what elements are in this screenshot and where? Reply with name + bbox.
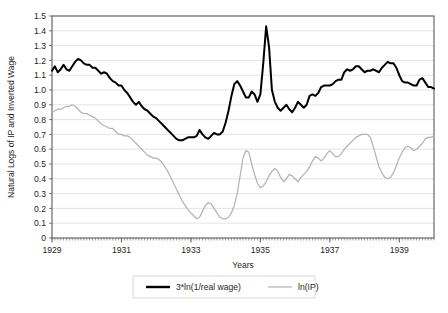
y-tick-label: 1.4 [34,26,46,36]
x-tick-label: 1931 [112,245,131,255]
x-tick-label: 1939 [390,245,409,255]
x-axis-title: Years [232,260,253,270]
y-axis-title: Natural Logs of IP and Inverted Wage [6,56,16,198]
y-tick-label: 0.4 [34,174,46,184]
y-tick-label: 1.0 [34,85,46,95]
x-tick-label: 1937 [320,245,339,255]
y-tick-label: 0.9 [34,100,46,110]
line-chart: 00.10.20.30.40.50.60.70.80.91.01.11.21.3… [0,0,448,313]
chart-figure: 00.10.20.30.40.50.60.70.80.91.01.11.21.3… [0,0,448,313]
y-tick-label: 0.5 [34,159,46,169]
y-tick-label: 0.2 [34,204,46,214]
y-tick-label: 1.3 [34,41,46,51]
y-tick-label: 1.1 [34,70,46,80]
y-tick-label: 0.6 [34,144,46,154]
legend: 3*ln(1/real wage)ln(IP) [133,276,319,298]
y-axis: 00.10.20.30.40.50.60.70.80.91.01.11.21.3… [34,11,52,243]
y-tick-label: 1.2 [34,56,46,66]
legend-label-ip: ln(IP) [298,282,319,292]
x-axis: 192919311933193519371939 [42,238,409,255]
x-tick-label: 1929 [42,245,61,255]
x-tick-label: 1935 [251,245,270,255]
x-tick-label: 1933 [181,245,200,255]
y-tick-label: 0.8 [34,115,46,125]
y-tick-label: 0.3 [34,189,46,199]
plot-background [52,16,434,238]
y-tick-label: 0.1 [34,218,46,228]
y-tick-label: 0.7 [34,130,46,140]
y-tick-label: 0 [41,233,46,243]
legend-label-wage: 3*ln(1/real wage) [176,282,241,292]
y-tick-label: 1.5 [34,11,46,21]
